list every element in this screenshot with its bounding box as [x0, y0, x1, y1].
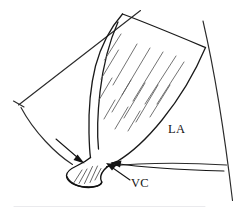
vena-contracta-neck	[67, 158, 118, 188]
hatch-line	[90, 166, 98, 183]
hatch-line	[145, 56, 176, 104]
hatch-line	[113, 44, 137, 85]
hatch-line	[128, 111, 140, 131]
ultrasound-sector-arc	[21, 108, 73, 165]
label-left-atrium: LA	[168, 122, 185, 136]
jet-hatching	[99, 34, 184, 131]
jet-right-boundary	[117, 48, 206, 162]
hatch-line	[85, 167, 93, 184]
jet-left-boundary	[89, 14, 123, 158]
jet-upper-rim	[123, 14, 206, 48]
neck-hatching	[74, 166, 101, 184]
vena-contracta-diagram: LA VC	[0, 0, 242, 212]
ultrasound-sector	[14, 11, 233, 201]
hatch-line	[150, 85, 170, 117]
hatch-line	[115, 107, 128, 129]
proximal-flow-arrow	[56, 139, 85, 164]
lateral-flow-pointer	[111, 161, 225, 172]
figure-container: LA VC	[0, 0, 242, 212]
neck-left-wall	[67, 158, 91, 188]
ultrasound-sector-right-edge	[203, 21, 233, 201]
regurgitant-jet	[89, 14, 206, 162]
hatch-line	[133, 52, 163, 101]
label-vena-contracta: VC	[131, 176, 149, 190]
orifice-rim	[67, 177, 102, 188]
hatch-line	[101, 50, 119, 79]
ultrasound-sector-left-edge	[19, 11, 141, 106]
hatch-line	[157, 62, 184, 104]
